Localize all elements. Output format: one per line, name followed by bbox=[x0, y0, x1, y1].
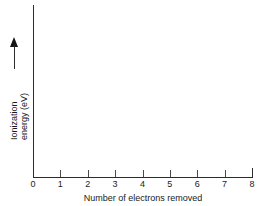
x-axis-tick-4 bbox=[143, 170, 144, 177]
x-axis-line bbox=[33, 177, 253, 178]
y-axis-line bbox=[33, 5, 34, 178]
x-axis-tick-1 bbox=[60, 170, 61, 177]
x-axis-tick-5 bbox=[170, 170, 171, 177]
up-arrow-icon bbox=[10, 37, 20, 69]
x-axis-tick-label-7: 7 bbox=[215, 179, 235, 190]
ionization-energy-blank-chart: 012345678 Number of electrons removed Io… bbox=[0, 0, 266, 206]
x-axis-tick-0 bbox=[33, 168, 34, 177]
x-axis-tick-label-1: 1 bbox=[50, 179, 70, 190]
x-axis-tick-8 bbox=[252, 168, 253, 177]
x-axis-tick-label-5: 5 bbox=[160, 179, 180, 190]
y-axis-title-line-1: Ionization bbox=[9, 101, 19, 140]
x-axis-tick-label-4: 4 bbox=[133, 179, 153, 190]
x-axis-title: Number of electrons removed bbox=[33, 193, 253, 204]
x-axis-tick-2 bbox=[88, 170, 89, 177]
x-axis-tick-label-0: 0 bbox=[23, 179, 43, 190]
x-axis-tick-label-8: 8 bbox=[242, 179, 262, 190]
x-axis-tick-label-3: 3 bbox=[105, 179, 125, 190]
y-axis-title-line-2: energy (eV) bbox=[19, 93, 29, 140]
x-axis-tick-3 bbox=[115, 170, 116, 177]
up-arrow-shaft bbox=[14, 45, 15, 69]
x-axis-tick-6 bbox=[197, 170, 198, 177]
x-axis-tick-label-2: 2 bbox=[78, 179, 98, 190]
x-axis-tick-label-6: 6 bbox=[187, 179, 207, 190]
plot-area bbox=[34, 5, 253, 177]
x-axis-tick-7 bbox=[225, 170, 226, 177]
